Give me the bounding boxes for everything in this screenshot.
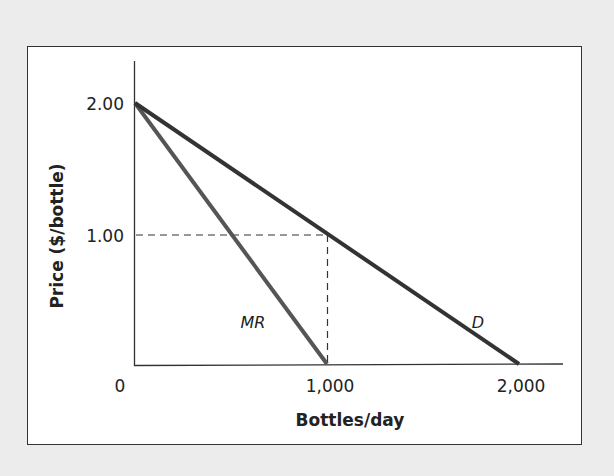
mr-label: MR [241,313,266,332]
x-axis-label: Bottles/day [296,410,405,430]
x-tick-1000: 1,000 [306,376,355,396]
y-tick-1: 1.00 [86,226,124,246]
y-tick-2: 2.00 [86,94,124,114]
x-tick-2000: 2,000 [497,376,546,396]
d-label: D [472,313,484,332]
x-tick-0: 0 [115,376,126,396]
x-axis [134,364,563,366]
y-axis-label: Price ($/bottle) [47,163,67,308]
mr-curve [135,103,327,364]
chart-plot: 2.00 1.00 0 1,000 2,000 Bottles/day Pric… [0,0,614,476]
